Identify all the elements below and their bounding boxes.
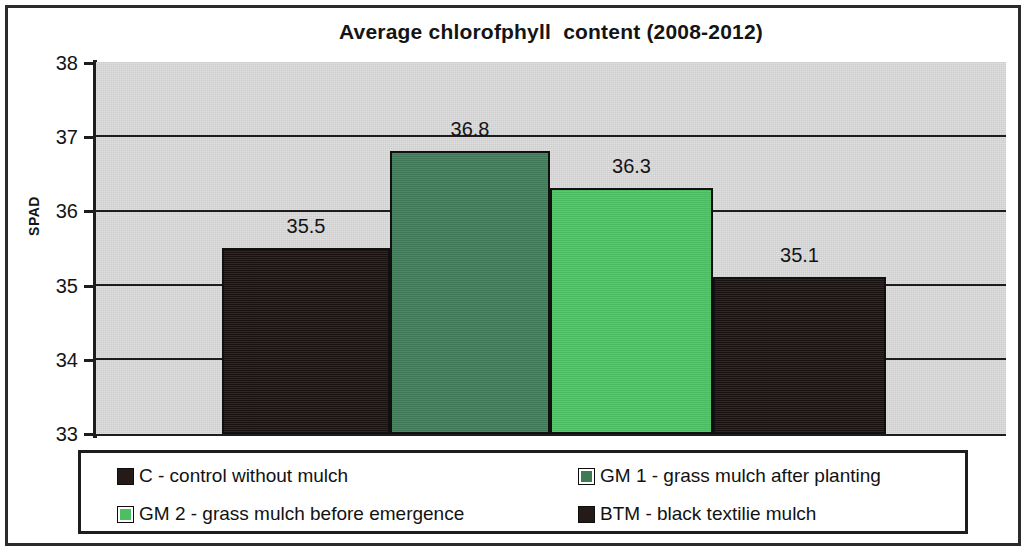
y-tick-label-35: 35 xyxy=(34,275,78,298)
bar-value-gm1: 36.8 xyxy=(390,118,550,141)
legend-swatch-black-icon xyxy=(117,468,134,485)
bar-btm xyxy=(713,277,886,434)
bar-c xyxy=(222,248,390,434)
legend-item-c: C - control without mulch xyxy=(117,465,348,487)
legend-label-btm: BTM - black textilie mulch xyxy=(600,503,816,525)
y-tick-label-37: 37 xyxy=(34,126,78,149)
bar-texture xyxy=(715,279,884,432)
bar-value-gm2: 36.3 xyxy=(550,155,713,178)
legend-item-btm: BTM - black textilie mulch xyxy=(578,503,816,525)
gridline-37 xyxy=(96,135,1006,137)
y-tick-label-33: 33 xyxy=(34,423,78,446)
chart-legend: C - control without mulch GM 1 - grass m… xyxy=(78,450,968,534)
chart-figure: Average chlorofphyll content (2008-2012)… xyxy=(0,0,1026,551)
legend-swatch-light-green-icon xyxy=(117,506,134,523)
legend-item-gm1: GM 1 - grass mulch after planting xyxy=(578,465,881,487)
bar-gm2 xyxy=(550,188,713,434)
legend-label-gm1: GM 1 - grass mulch after planting xyxy=(600,465,881,487)
legend-item-gm2: GM 2 - grass mulch before emergence xyxy=(117,503,464,525)
bar-texture xyxy=(392,153,548,432)
legend-swatch-dark-green-icon xyxy=(578,468,595,485)
bar-texture xyxy=(224,250,388,432)
legend-label-c: C - control without mulch xyxy=(139,465,348,487)
chart-title: Average chlorofphyll content (2008-2012) xyxy=(96,20,1006,44)
bar-value-btm: 35.1 xyxy=(713,244,886,267)
bar-gm1 xyxy=(390,151,550,434)
y-tick-label-38: 38 xyxy=(34,52,78,75)
y-tick-label-36: 36 xyxy=(34,200,78,223)
legend-label-gm2: GM 2 - grass mulch before emergence xyxy=(139,503,464,525)
bar-value-c: 35.5 xyxy=(222,215,390,238)
bar-texture xyxy=(552,190,711,432)
legend-swatch-black-icon xyxy=(578,506,595,523)
y-tick-label-34: 34 xyxy=(34,349,78,372)
